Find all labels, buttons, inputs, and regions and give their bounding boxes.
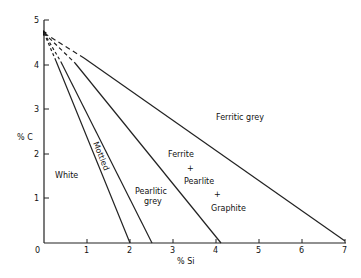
y-ticks xyxy=(44,20,49,198)
x-tick-5: 5 xyxy=(256,246,261,255)
x-tick-4: 4 xyxy=(213,246,218,255)
region-white: White xyxy=(55,171,78,180)
boundary-pearlitic-ferrite-pearlite xyxy=(44,33,221,243)
y-tick-2: 2 xyxy=(34,150,39,159)
x-tick-0: 0 xyxy=(35,246,40,255)
y-axis-label: % C xyxy=(17,133,33,142)
y-tick-5: 5 xyxy=(34,16,39,25)
region-pearlitic-grey-line1: Pearlitic xyxy=(135,187,167,196)
y-tick-1: 1 xyxy=(34,194,39,203)
cast-iron-structure-diagram: 5 4 3 2 1 0 1 2 3 4 5 6 7 % C % Si White… xyxy=(0,0,361,278)
x-tick-6: 6 xyxy=(299,246,304,255)
region-plus-1: + xyxy=(187,164,194,173)
y-tick-4: 4 xyxy=(34,61,39,70)
region-plus-2: + xyxy=(214,190,221,199)
x-tick-3: 3 xyxy=(170,246,175,255)
region-pearlitic-grey-line2: grey xyxy=(144,197,162,206)
region-ferritic-grey: Ferritic grey xyxy=(216,113,264,122)
x-tick-7: 7 xyxy=(342,246,347,255)
x-tick-2: 2 xyxy=(127,246,132,255)
boundary-white-mottled xyxy=(44,33,130,243)
region-ferrite: Ferrite xyxy=(168,150,194,159)
x-tick-1: 1 xyxy=(84,246,89,255)
x-axis-label: % Si xyxy=(177,257,194,266)
y-tick-3: 3 xyxy=(34,105,39,114)
region-graphite: Graphite xyxy=(211,204,246,213)
region-pearlite: Pearlite xyxy=(184,177,214,186)
